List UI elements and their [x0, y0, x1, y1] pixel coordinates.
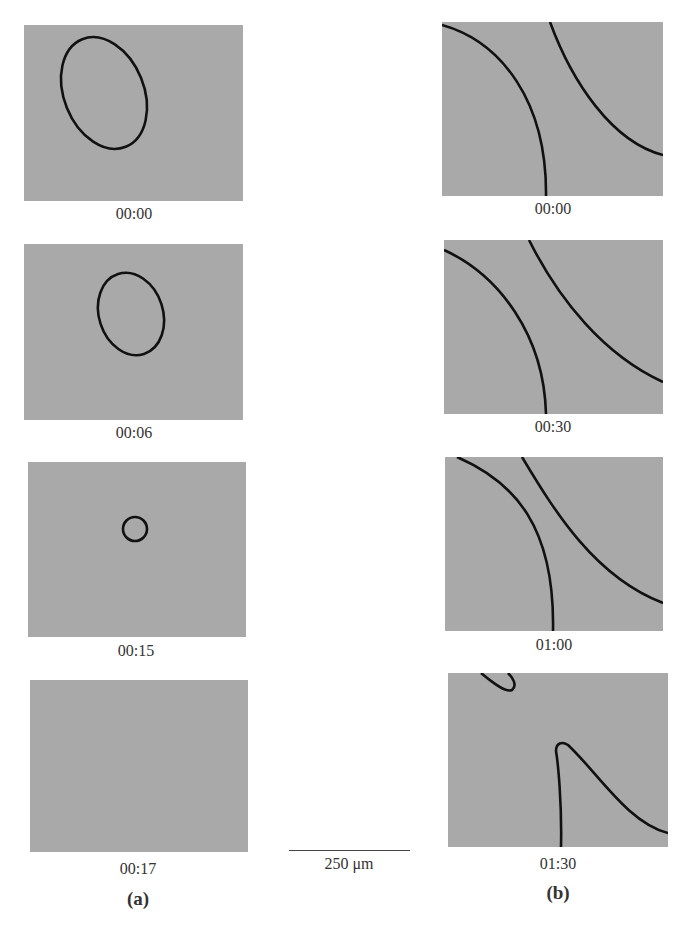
time-label: 01:30 [458, 855, 658, 873]
time-label: 00:00 [453, 200, 653, 218]
time-label: 00:06 [34, 424, 234, 442]
scale-bar [289, 850, 410, 851]
contour-curves [442, 22, 663, 196]
time-label: 00:00 [34, 205, 234, 223]
contour-curves [448, 673, 668, 847]
time-label: 00:17 [38, 860, 238, 878]
subfigure-label-b: (b) [528, 882, 588, 904]
panel-b-1 [442, 22, 663, 196]
panel-a-1 [24, 25, 243, 201]
subfigure-label-a: (a) [108, 888, 168, 910]
time-label: 00:30 [453, 418, 653, 436]
time-label: 01:00 [454, 636, 654, 654]
panel-b-4 [448, 673, 668, 847]
panel-a-2 [24, 244, 243, 420]
contour-ellipse [24, 244, 243, 420]
panel-b-3 [445, 457, 663, 631]
contour-curves [445, 457, 663, 631]
contour-curves [444, 240, 663, 414]
scale-bar-label: 250 μm [279, 855, 419, 873]
contour-circle [28, 462, 246, 637]
panel-a-4 [30, 680, 248, 852]
panel-b-2 [444, 240, 663, 414]
contour-ellipse [24, 25, 243, 201]
time-label: 00:15 [36, 642, 236, 660]
panel-a-3 [28, 462, 246, 637]
